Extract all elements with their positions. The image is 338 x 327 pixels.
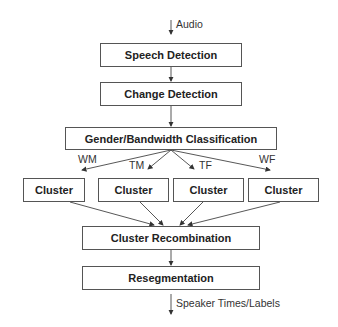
- branch-label-wf: WF: [259, 153, 275, 165]
- branch-label-wm: WM: [78, 153, 97, 165]
- cluster-label: Cluster: [190, 184, 228, 196]
- cluster-recombination-box: Cluster Recombination: [82, 226, 260, 250]
- speech-detection-box: Speech Detection: [100, 43, 242, 67]
- cluster-label: Cluster: [115, 184, 153, 196]
- resegmentation-label: Resegmentation: [128, 272, 214, 284]
- change-detection-box: Change Detection: [100, 82, 242, 106]
- output-label: Speaker Times/Labels: [176, 297, 280, 309]
- cluster-recombination-label: Cluster Recombination: [111, 232, 231, 244]
- classification-label: Gender/Bandwidth Classification: [85, 133, 257, 145]
- branch-label-tm: TM: [129, 159, 144, 171]
- change-detection-label: Change Detection: [124, 88, 218, 100]
- cluster-box-wm: Cluster: [23, 178, 85, 202]
- cluster-box-wf: Cluster: [248, 178, 319, 202]
- branch-label-tf: TF: [199, 159, 212, 171]
- cluster-box-tf: Cluster: [173, 178, 244, 202]
- speech-detection-label: Speech Detection: [125, 49, 217, 61]
- cluster-box-tm: Cluster: [98, 178, 169, 202]
- cluster-label: Cluster: [35, 184, 73, 196]
- input-label-audio: Audio: [176, 18, 203, 30]
- resegmentation-box: Resegmentation: [82, 266, 260, 290]
- cluster-label: Cluster: [265, 184, 303, 196]
- classification-box: Gender/Bandwidth Classification: [65, 127, 277, 150]
